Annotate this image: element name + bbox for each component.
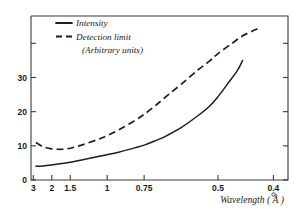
data-curves	[36, 28, 260, 167]
x-axis-ticks	[33, 175, 273, 180]
x-tick-label: 0.4	[268, 183, 280, 193]
x-tick-label: 3	[31, 183, 36, 193]
chart-canvas: 0102030 321.510.750.50.4 IntensityDetect…	[0, 0, 304, 212]
y-tick-label: 10	[18, 141, 28, 151]
x-tick-label: 0.5	[212, 183, 224, 193]
x-axis-title: Wavelength ( Å )	[220, 193, 284, 206]
x-tick-label: 1	[105, 183, 110, 193]
series-curve-detection-limit	[36, 28, 260, 150]
legend-label: (Arbitrary units)	[82, 45, 143, 55]
x-tick-label: 1.5	[64, 183, 76, 193]
chart-figure: 0102030 321.510.750.50.4 IntensityDetect…	[0, 0, 304, 212]
plot-frame	[31, 16, 288, 180]
x-tick-label: 2	[49, 183, 54, 193]
x-axis-tick-labels: 321.510.750.50.4	[31, 183, 280, 193]
x-tick-label: 0.75	[136, 183, 153, 193]
legend-label: Intensity	[75, 18, 109, 28]
y-tick-label: 30	[18, 73, 28, 83]
legend-label: Detection limit	[75, 32, 131, 42]
y-axis-ticks	[31, 43, 36, 180]
series-curve-intensity	[36, 60, 243, 166]
y-tick-label: 20	[18, 107, 28, 117]
chart-legend: IntensityDetection limit(Arbitrary units…	[56, 18, 143, 55]
y-axis-right-ticks	[283, 43, 288, 180]
y-axis-tick-labels: 0102030	[18, 73, 28, 186]
y-tick-label: 0	[22, 175, 27, 185]
